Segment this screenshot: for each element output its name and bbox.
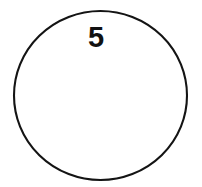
figure-canvas: 5 [0, 0, 202, 187]
circle-number-label: 5 [88, 23, 104, 52]
